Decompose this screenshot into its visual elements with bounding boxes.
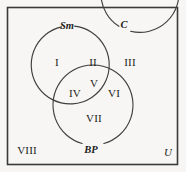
universe-label: U	[164, 147, 172, 158]
region-label-viii: VIII	[17, 145, 37, 156]
set-circle-c	[101, 0, 179, 32]
region-label-i: I	[55, 57, 59, 68]
set-label-sm: Sm	[60, 21, 74, 32]
region-label-vi: VI	[108, 88, 120, 99]
set-label-bp: BP	[84, 145, 97, 156]
region-label-v: V	[90, 78, 98, 89]
region-label-ii: II	[89, 57, 97, 68]
set-label-c: C	[120, 20, 127, 31]
region-label-iii: III	[124, 57, 136, 68]
region-label-iv: IV	[69, 88, 81, 99]
region-label-vii: VII	[86, 113, 102, 124]
venn-diagram-figure: Sm C BP I II III IV V VI VII VIII U	[0, 0, 186, 172]
